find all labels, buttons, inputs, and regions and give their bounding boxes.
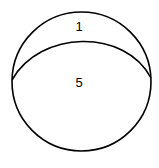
circle-diagram: 1 5 — [0, 0, 159, 168]
region-label-top: 1 — [75, 19, 82, 34]
region-label-bottom: 5 — [75, 75, 82, 90]
